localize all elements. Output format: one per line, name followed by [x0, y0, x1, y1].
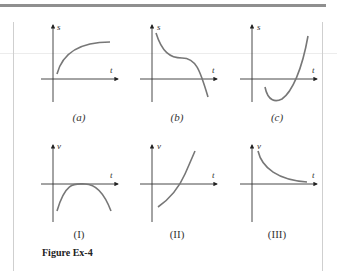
- panel-label-II: (II): [170, 228, 185, 241]
- curve-a: [57, 42, 110, 74]
- panel-label-b: (b): [171, 111, 184, 124]
- figure-caption: Figure Ex-4: [42, 247, 93, 258]
- panel-label-III: (III): [268, 228, 287, 241]
- panel-c-axes: [240, 25, 317, 102]
- axis-label-s-a: s: [57, 22, 61, 32]
- axis-label-t-I: t: [110, 170, 113, 180]
- curve-I: [57, 184, 111, 211]
- axis-label-v-III: v: [257, 141, 261, 151]
- figure-panels: s t s t s t v t v t v t (a) (b) (c) (I) …: [0, 0, 337, 271]
- curve-b: [156, 33, 208, 97]
- panel-label-a: (a): [73, 111, 86, 124]
- axis-label-t-II: t: [212, 170, 215, 180]
- axis-label-t-b: t: [212, 65, 215, 75]
- panel-a-axes: [41, 25, 118, 102]
- axis-label-s-c: s: [257, 22, 261, 32]
- axis-label-v-I: v: [57, 141, 61, 151]
- axis-label-t-a: t: [110, 65, 113, 75]
- curve-III: [258, 151, 307, 182]
- axis-label-s-b: s: [157, 22, 161, 32]
- curve-c: [265, 36, 308, 101]
- axis-label-t-c: t: [312, 65, 315, 75]
- panel-label-I: (I): [74, 228, 85, 241]
- panel-III-axes: [240, 145, 317, 222]
- axis-label-t-III: t: [312, 170, 315, 180]
- panel-II-axes: [140, 145, 217, 222]
- axis-label-v-II: v: [157, 141, 161, 151]
- panel-label-c: (c): [271, 111, 284, 124]
- curve-II: [158, 151, 195, 207]
